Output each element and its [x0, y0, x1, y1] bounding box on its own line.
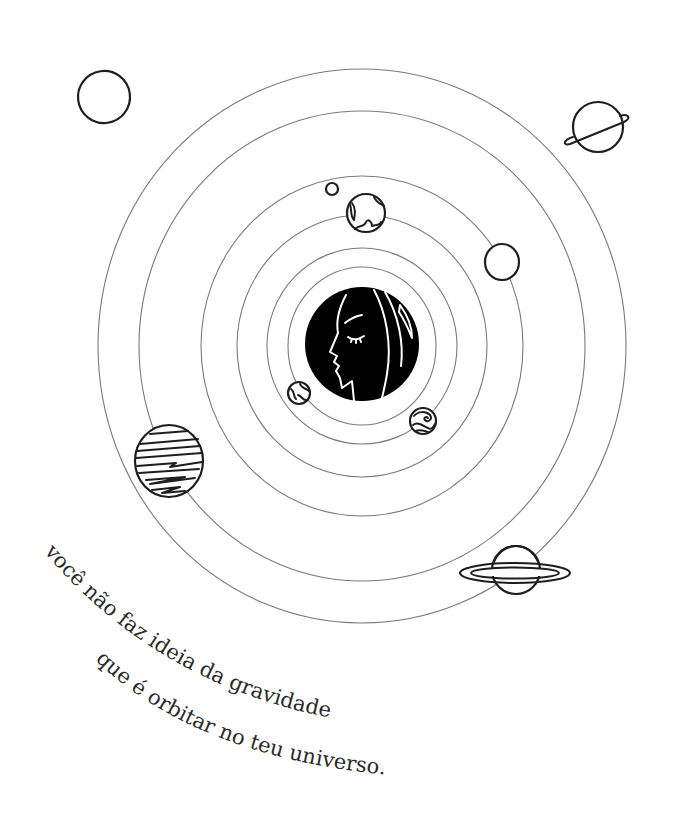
solar-system-illustration: você não faz ideia da gravidade que é or… — [0, 0, 689, 830]
swirl-planet-icon — [410, 408, 436, 434]
outline-planet-right-icon — [485, 244, 519, 280]
tiny-moon-icon — [326, 183, 338, 195]
earth-planet-icon — [347, 194, 385, 232]
striped-planet-icon — [135, 425, 203, 497]
small-earth-planet-icon — [288, 382, 310, 404]
